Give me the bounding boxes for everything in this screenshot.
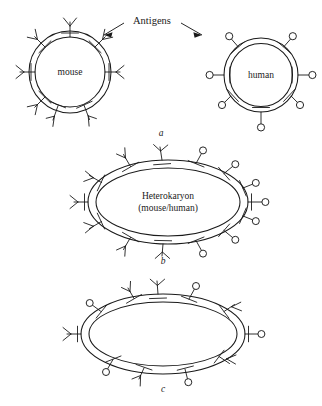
antigen-y-fork bbox=[27, 91, 51, 115]
arrow-to-mouse-cell bbox=[104, 23, 124, 38]
antigen-y-fork bbox=[16, 64, 35, 81]
antigen-circle-knob bbox=[219, 161, 239, 180]
antigen-circle-knob bbox=[245, 326, 265, 342]
mouse-cell-label: mouse bbox=[58, 67, 83, 77]
antigen-y-fork bbox=[63, 326, 81, 342]
antigen-y-fork bbox=[132, 364, 152, 386]
heterokaryon-mixed-inner-membrane bbox=[89, 302, 237, 366]
antigen-circle-knob bbox=[248, 194, 269, 210]
antigen-circle-knob bbox=[240, 179, 260, 196]
heterokaryon-mixed-antigen-group bbox=[63, 279, 265, 386]
antigen-y-fork bbox=[150, 279, 167, 298]
panel-label-b: b bbox=[161, 256, 166, 266]
antigen-y-fork bbox=[89, 29, 113, 53]
human-cell: human bbox=[206, 33, 316, 131]
antigen-y-fork bbox=[27, 29, 51, 53]
arrow-to-human-cell bbox=[181, 23, 202, 38]
heterokaryon-fresh-cell: Heterokaryon (mouse/human) bbox=[70, 145, 269, 259]
antigen-circle-knob bbox=[240, 208, 260, 225]
antigen-y-fork bbox=[214, 350, 236, 364]
heterokaryon-label-line2: (mouse/human) bbox=[138, 203, 198, 214]
panel-b: Heterokaryon (mouse/human) b bbox=[70, 145, 269, 266]
heterokaryon-outer-membrane bbox=[88, 160, 248, 244]
antigen-circle-knob bbox=[206, 67, 230, 83]
figure-root: Antigens bbox=[0, 0, 322, 406]
antigen-y-fork bbox=[84, 213, 105, 233]
antigen-y-fork bbox=[219, 302, 241, 318]
diagram-canvas: Antigens bbox=[0, 0, 322, 406]
heterokaryon-mouse-antigen-group bbox=[70, 145, 172, 259]
heterokaryon-inner-membrane bbox=[96, 168, 240, 236]
antigens-label: Antigens bbox=[133, 15, 171, 26]
antigen-y-fork bbox=[46, 102, 65, 127]
panel-c: c bbox=[63, 279, 265, 394]
panel-label-a: a bbox=[159, 128, 164, 138]
panel-label-c: c bbox=[161, 384, 166, 394]
antigen-y-fork bbox=[122, 281, 142, 303]
antigen-y-fork bbox=[105, 64, 124, 81]
antigen-y-fork bbox=[62, 18, 79, 37]
antigen-circle-knob bbox=[177, 366, 193, 386]
antigen-y-fork bbox=[154, 145, 171, 165]
human-cell-label: human bbox=[248, 70, 274, 80]
antigen-circle-knob bbox=[292, 67, 316, 83]
antigen-y-fork bbox=[70, 194, 88, 210]
heterokaryon-label-line1: Heterokaryon bbox=[142, 191, 194, 201]
antigen-y-fork bbox=[84, 171, 105, 191]
heterokaryon-mixed-cell bbox=[63, 279, 265, 386]
antigen-circle-knob bbox=[219, 224, 239, 243]
panel-a: Antigens bbox=[16, 15, 316, 138]
human-antigen-group bbox=[206, 33, 316, 131]
antigens-annotation: Antigens bbox=[104, 15, 202, 38]
antigen-circle-knob bbox=[181, 283, 199, 303]
